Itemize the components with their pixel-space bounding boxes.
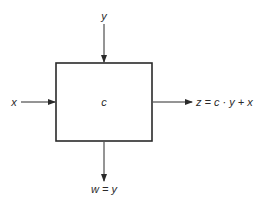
input-label-top: y: [100, 10, 108, 22]
input-label-left: x: [10, 96, 17, 108]
block-label: c: [101, 96, 107, 108]
block-diagram: y x c z = c · y + x w = y: [0, 0, 263, 205]
output-label-right: z = c · y + x: [195, 96, 253, 108]
output-label-bottom: w = y: [91, 183, 118, 195]
